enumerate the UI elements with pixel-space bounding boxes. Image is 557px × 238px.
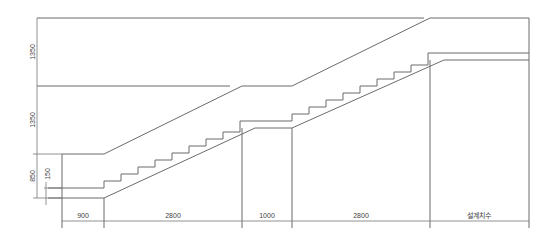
staircase-drawing: 900 2800 1000 2800 설계치수 1350 1350 850 15… — [0, 0, 557, 238]
stair-soffit — [48, 60, 529, 198]
extension-lines — [62, 60, 430, 228]
drawing-svg: 900 2800 1000 2800 설계치수 1350 1350 850 15… — [0, 0, 557, 238]
dim-label-2800-a: 2800 — [165, 212, 181, 219]
reference-lines — [37, 18, 529, 228]
dim-label-1000: 1000 — [259, 212, 275, 219]
dim-label-design: 설계치수 — [467, 211, 492, 220]
dim-label-2800-b: 2800 — [353, 212, 369, 219]
dim-label-1350-top: 1350 — [29, 44, 36, 60]
dim-label-150: 150 — [44, 168, 51, 180]
stair-treads — [48, 53, 529, 188]
dim-label-850: 850 — [29, 170, 36, 182]
dim-label-900: 900 — [77, 212, 89, 219]
dim-label-1350-mid: 1350 — [29, 112, 36, 128]
